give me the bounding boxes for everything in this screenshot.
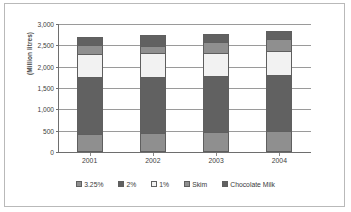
bar-segment[interactable] xyxy=(140,46,166,53)
legend-label: Skim xyxy=(192,181,207,188)
bar-segment[interactable] xyxy=(77,54,103,77)
bar-segment[interactable] xyxy=(203,34,229,42)
y-tick-mark xyxy=(56,88,59,89)
plot-wrapper: (Million litres) 05001,0001,5002,0002,50… xyxy=(5,4,346,159)
legend-swatch-1-percent xyxy=(151,181,157,187)
bar-segment[interactable] xyxy=(140,53,166,77)
bar-segment[interactable] xyxy=(203,76,229,132)
bar-segment[interactable] xyxy=(77,77,103,133)
legend-label: 2% xyxy=(126,181,136,188)
y-tick-label: 0 xyxy=(50,149,54,156)
x-tick-mark xyxy=(90,153,91,156)
legend-item[interactable]: Skim xyxy=(184,181,207,188)
bar-segment[interactable] xyxy=(203,42,229,53)
bar-segment[interactable] xyxy=(140,77,166,133)
x-tick-mark xyxy=(153,153,154,156)
bar-group[interactable] xyxy=(77,37,103,152)
legend-label: Chocolate Milk xyxy=(230,181,275,188)
bar-segment[interactable] xyxy=(266,31,292,39)
y-tick-mark xyxy=(56,67,59,68)
bar-segment[interactable] xyxy=(266,75,292,131)
y-tick-mark xyxy=(56,131,59,132)
legend-swatch-2-percent xyxy=(118,181,124,187)
legend-label: 1% xyxy=(159,181,169,188)
x-tick-label: 2004 xyxy=(272,157,287,164)
bar-segment[interactable] xyxy=(140,133,166,152)
legend-item[interactable]: 2% xyxy=(118,181,136,188)
x-tick-label: 2003 xyxy=(209,157,224,164)
chart-legend: 3.25%2%1%SkimChocolate Milk xyxy=(5,176,346,192)
x-tick-mark xyxy=(279,153,280,156)
y-tick-label: 500 xyxy=(43,127,54,134)
legend-label: 3.25% xyxy=(84,181,103,188)
x-tick-label: 2002 xyxy=(145,157,160,164)
bar-segment[interactable] xyxy=(77,45,103,54)
gridline xyxy=(58,24,311,25)
y-tick-label: 1,000 xyxy=(37,106,54,113)
bar-segment[interactable] xyxy=(203,132,229,152)
gridline xyxy=(58,152,311,153)
bar-group[interactable] xyxy=(203,34,229,152)
x-tick-mark xyxy=(216,153,217,156)
legend-item[interactable]: Chocolate Milk xyxy=(222,181,275,188)
bar-segment[interactable] xyxy=(266,39,292,51)
legend-item[interactable]: 3.25% xyxy=(76,181,103,188)
legend-swatch-skim xyxy=(184,181,190,187)
plot-area: 05001,0001,5002,0002,5003,000 xyxy=(58,24,311,152)
x-tick-label: 2001 xyxy=(82,157,97,164)
bar-segment[interactable] xyxy=(266,131,292,152)
x-axis-labels: 2001200220032004 xyxy=(58,157,311,171)
bar-segment[interactable] xyxy=(140,35,166,46)
y-tick-label: 3,000 xyxy=(37,21,54,28)
y-axis-title: (Million litres) xyxy=(26,4,33,104)
bar-segment[interactable] xyxy=(266,51,292,75)
y-tick-mark xyxy=(56,45,59,46)
y-tick-mark xyxy=(56,109,59,110)
legend-item[interactable]: 1% xyxy=(151,181,169,188)
y-tick-label: 1,500 xyxy=(37,85,54,92)
bar-segment[interactable] xyxy=(77,37,103,45)
bar-group[interactable] xyxy=(266,31,292,152)
legend-swatch-chocolate-milk xyxy=(222,181,228,187)
y-tick-label: 2,500 xyxy=(37,42,54,49)
chart-frame: (Million litres) 05001,0001,5002,0002,50… xyxy=(4,3,345,207)
legend-swatch-3-25-percent xyxy=(76,181,82,187)
y-tick-mark xyxy=(56,152,59,153)
bar-group[interactable] xyxy=(140,35,166,152)
y-tick-label: 2,000 xyxy=(37,63,54,70)
bar-segment[interactable] xyxy=(203,53,229,76)
bar-segment[interactable] xyxy=(77,134,103,152)
y-tick-mark xyxy=(56,24,59,25)
